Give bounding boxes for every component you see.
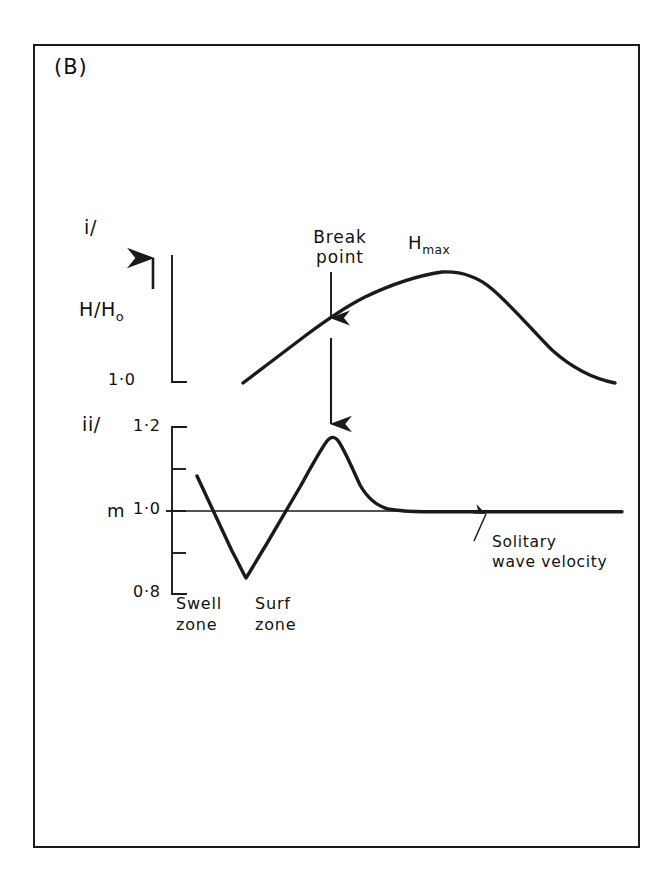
panel-ii-index-label: ii/ bbox=[82, 413, 101, 435]
panel-ii-tick-label-1-0: 1·0 bbox=[133, 500, 161, 519]
solitary-wave-velocity-annotation: Solitary wave velocity bbox=[492, 533, 608, 573]
h-max-annotation: Hmax bbox=[408, 232, 450, 257]
panel-i-index-label: i/ bbox=[84, 216, 97, 238]
panel-i-y-axis-label-main: H/H bbox=[79, 298, 116, 320]
swell-zone-label: Swell zone bbox=[176, 594, 222, 636]
panel-ii-tick-label-0-8: 0·8 bbox=[133, 583, 161, 602]
h-max-annotation-main: H bbox=[408, 232, 422, 253]
surf-zone-label: Surf zone bbox=[255, 594, 296, 636]
panel-ii-y-axis-label: m bbox=[107, 500, 125, 521]
panel-i-tick-label-1-0: 1·0 bbox=[108, 371, 136, 390]
figure-root: (B) i/ H/Ho 1·0 Break point Hmax ii/ m 1… bbox=[0, 0, 672, 885]
break-point-annotation: Break point bbox=[290, 227, 390, 267]
figure-frame-border bbox=[33, 44, 640, 848]
panel-letter-label: (B) bbox=[54, 55, 88, 80]
panel-i-y-axis-label: H/Ho bbox=[79, 298, 124, 324]
panel-i-y-axis-label-subscript: o bbox=[116, 309, 124, 324]
h-max-annotation-subscript: max bbox=[422, 243, 450, 257]
panel-ii-tick-label-1-2: 1·2 bbox=[133, 417, 161, 436]
